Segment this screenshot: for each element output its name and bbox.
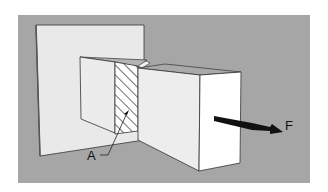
shear-area-a [115,62,138,134]
label-a: A [87,149,96,162]
label-f: F [285,119,293,132]
diagram-canvas [0,0,328,192]
